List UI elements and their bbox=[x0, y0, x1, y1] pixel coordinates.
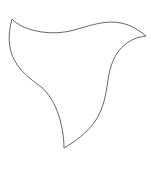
diagram-canvas bbox=[0, 0, 151, 172]
curved-triangle-shape bbox=[9, 19, 146, 148]
